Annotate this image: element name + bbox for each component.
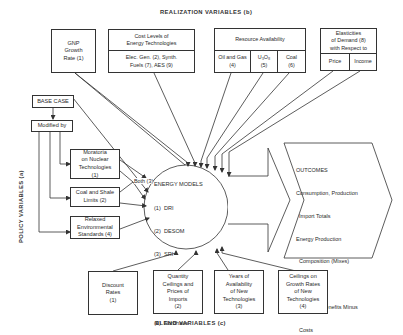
cost-levels-box: Cost Levels of Energy Technologies Elec.… (108, 29, 195, 73)
cost-levels-title: Cost Levels of Energy Technologies (109, 30, 194, 51)
outcome-arrow (228, 148, 290, 252)
elasticity-income: Income (350, 54, 376, 70)
outcome-line: Energy Production (296, 236, 359, 244)
blend-growth-ceilings-box: Ceilings on Growth Rates of New Technolo… (278, 270, 328, 314)
policy-moratoria-box: Moratoria on Nuclear Technologies (1) (70, 149, 120, 179)
energy-model-item: (2) DESOM (154, 228, 203, 236)
energy-model-item: (1) DRI (154, 205, 203, 213)
elasticities-box: Elasticities of Demand (8) with Respect … (320, 28, 377, 71)
outcome-line: Consumption, Production (296, 190, 359, 198)
resource-coal: Coal (6) (278, 51, 305, 72)
elasticities-title: Elasticities of Demand (8) with Respect … (321, 29, 376, 54)
realization-variables-heading: REALIZATION VARIABLES (b) (160, 9, 252, 15)
elasticity-price: Price (321, 54, 350, 70)
outcome-line: Costs (296, 327, 359, 335)
resource-oil-gas: Oil and Gas (4) (215, 51, 251, 72)
outcome-line: Import Totals (296, 213, 359, 221)
policy-environmental-box: Relaxed Environmental Standards (4) (70, 216, 120, 239)
energy-models-title: ENERGY MODELS (154, 181, 203, 189)
policy-coal-shale-box: Coal and Shale Limits (2) (70, 187, 120, 207)
base-case-box: BASE CASE (32, 95, 74, 108)
resource-availability-title: Resource Availability (215, 29, 305, 51)
energy-model-item: (6) Nordhaus (154, 320, 203, 328)
modified-by-box: Modified by (31, 120, 73, 132)
both-label: Both (3) (134, 178, 153, 184)
blend-quantity-ceilings-box: Quantity Ceilings and Prices of Imports … (153, 270, 203, 314)
blend-discount-rates-box: Discount Rates (1) (88, 271, 138, 315)
outcomes-title: OUTCOMES (296, 167, 359, 175)
cost-levels-detail: Elec. Gen. (2), Synth. Fuels (7), AES (9… (109, 51, 194, 72)
energy-model-item: (3) SRI (154, 251, 203, 259)
gnp-growth-rate-box: GNP Growth Rate (1) (51, 29, 96, 73)
policy-variables-heading: POLICY VARIABLES (a) (18, 170, 24, 243)
resource-availability-box: Resource Availability Oil and Gas (4) U₃… (214, 28, 306, 73)
resource-u3o8: U₃O₈ (5) (251, 51, 278, 72)
blend-years-availability-box: Years of Availability of New Technologie… (214, 270, 264, 314)
outcome-line: Composition (Mixes) (296, 258, 359, 266)
